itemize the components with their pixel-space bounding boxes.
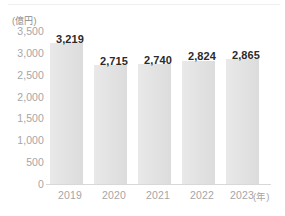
y-tick-label: 1,500 <box>0 112 44 124</box>
x-tick-label-2022: 2022 <box>180 189 224 201</box>
bar-2019[interactable] <box>50 43 83 184</box>
bar-group <box>180 0 224 184</box>
bar-group <box>136 0 180 184</box>
x-axis-unit-label: (年) <box>253 189 269 203</box>
y-tick-label: 3,000 <box>0 47 44 59</box>
x-tick-label-2019: 2019 <box>48 189 92 201</box>
y-tick-label: 0 <box>0 178 44 190</box>
bar-value-label: 2,865 <box>224 49 268 61</box>
bar-group <box>48 0 92 184</box>
y-tick-label: 500 <box>0 156 44 168</box>
x-tick-label-2021: 2021 <box>136 189 180 201</box>
bar-2023[interactable] <box>226 59 259 184</box>
y-axis: 3,500 3,000 2,500 2,000 1,500 1,000 500 … <box>0 0 44 216</box>
y-tick-label: 1,000 <box>0 134 44 146</box>
bar-2021[interactable] <box>138 64 171 184</box>
bar-chart-figure: (億円) 3,500 3,000 2,500 2,000 1,500 1,000… <box>0 0 285 216</box>
bar-value-label: 2,824 <box>180 50 224 62</box>
bar-2022[interactable] <box>182 61 215 184</box>
bar-value-label: 2,740 <box>136 54 180 66</box>
plot-area: 3,219 2,715 2,740 2,824 2,865 2019 2020 … <box>48 0 273 216</box>
bar-2020[interactable] <box>94 65 127 184</box>
x-tick-label-2020: 2020 <box>92 189 136 201</box>
bar-group <box>224 0 268 184</box>
bar-value-label: 2,715 <box>92 55 136 67</box>
bar-group <box>92 0 136 184</box>
y-tick-label: 2,000 <box>0 91 44 103</box>
bar-value-label: 3,219 <box>48 33 92 45</box>
y-tick-label: 3,500 <box>0 25 44 37</box>
y-tick-label: 2,500 <box>0 69 44 81</box>
